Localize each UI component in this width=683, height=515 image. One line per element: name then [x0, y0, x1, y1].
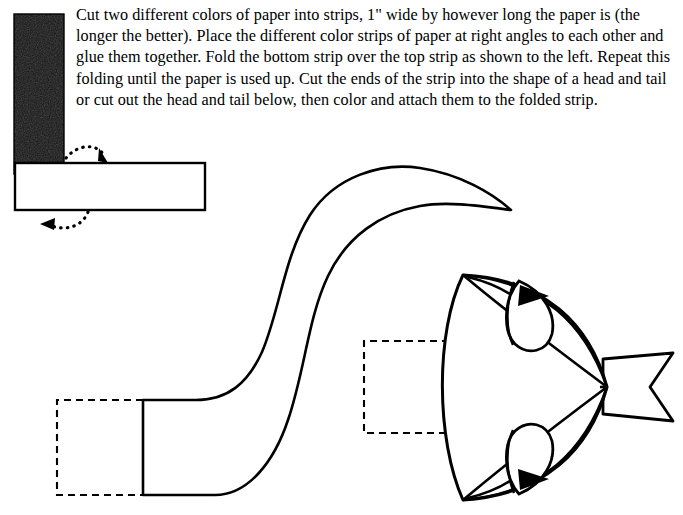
- fold-arrow-lower: [40, 212, 88, 230]
- instruction-paragraph: Cut two different colors of paper into s…: [76, 5, 676, 111]
- head-notched-tab: [603, 353, 673, 421]
- horizontal-light-paper-strip: [15, 163, 205, 210]
- vertical-dark-paper-strip: [14, 14, 64, 174]
- head-glue-tab-dashed: [364, 341, 449, 433]
- fish-tail-cutout: [57, 167, 511, 495]
- tail-glue-tab-dashed: [57, 400, 143, 495]
- fold-arrow-upper: [66, 147, 108, 163]
- head-eye-upper: [506, 281, 552, 351]
- fish-head-cutout: [364, 275, 673, 500]
- head-eye-lower: [506, 424, 552, 494]
- craft-instruction-page: Cut two different colors of paper into s…: [0, 0, 683, 515]
